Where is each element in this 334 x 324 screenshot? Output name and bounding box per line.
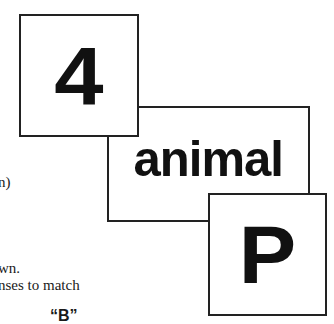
card-letter-label: P	[239, 214, 296, 296]
card-word-label: animal	[134, 134, 283, 184]
text-fragment: nses to match	[0, 278, 80, 293]
text-fragment: wn.	[0, 261, 20, 276]
card-number-label: 4	[54, 35, 103, 117]
text-fragment: n)	[0, 175, 11, 190]
text-fragment-cut-off: “B”	[50, 308, 78, 324]
card-letter-p: P	[208, 193, 327, 316]
card-number-4: 4	[19, 14, 139, 137]
